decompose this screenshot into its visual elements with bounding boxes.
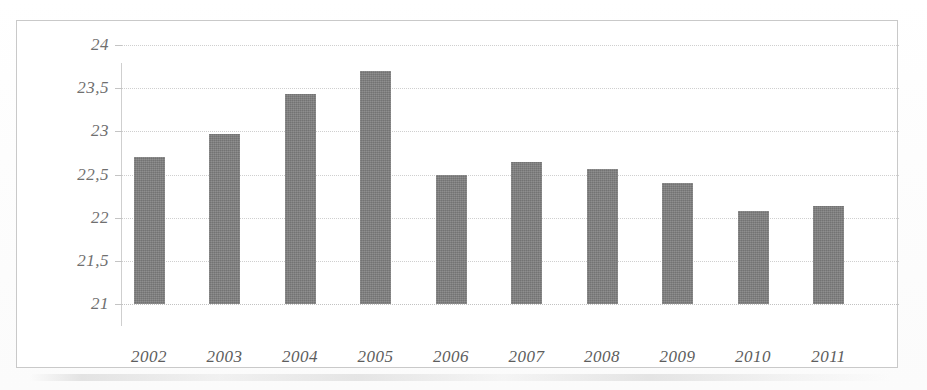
- gridline: [121, 88, 899, 89]
- bar: [662, 183, 693, 304]
- x-axis-category-label: 2004: [263, 347, 337, 367]
- y-axis-tick-label: 21,5: [77, 250, 109, 270]
- y-axis-tick-label: 24: [91, 35, 109, 55]
- bar: [511, 162, 542, 304]
- y-axis-tick-label: 23: [91, 121, 109, 141]
- gridline: [121, 304, 899, 305]
- y-axis-tick-label: 21: [91, 294, 109, 314]
- x-axis-category-label: 2005: [339, 347, 413, 367]
- x-axis-category-label: 2009: [641, 347, 715, 367]
- y-axis-tick: [115, 261, 122, 262]
- y-axis-tick: [115, 88, 122, 89]
- bar: [285, 94, 316, 304]
- bar: [134, 157, 165, 304]
- x-axis-category-label: 2006: [414, 347, 488, 367]
- gridline: [121, 45, 899, 46]
- scan-artifact: [30, 374, 890, 381]
- x-axis-category-label: 2007: [490, 347, 564, 367]
- y-axis-tick-label: 23,5: [77, 78, 109, 98]
- bar: [209, 134, 240, 304]
- y-axis-tick: [115, 304, 122, 305]
- y-axis-tick: [115, 131, 122, 132]
- y-axis-tick-label: 22,5: [77, 164, 109, 184]
- y-axis-tick: [115, 175, 122, 176]
- y-axis-tick: [115, 218, 122, 219]
- x-axis-category-label: 2011: [792, 347, 866, 367]
- x-axis-category-label: 2002: [112, 347, 186, 367]
- chart-screenshot: 2423,52322,52221,521 2002200320042005200…: [0, 0, 927, 390]
- bar: [813, 206, 844, 304]
- bar: [436, 175, 467, 304]
- y-axis-line: [121, 63, 122, 326]
- gridline: [121, 131, 899, 132]
- x-axis-category-label: 2010: [716, 347, 790, 367]
- x-axis-category-label: 2008: [565, 347, 639, 367]
- bar: [587, 169, 618, 304]
- chart-frame: 2423,52322,52221,521 2002200320042005200…: [16, 20, 898, 368]
- y-axis-tick: [115, 45, 122, 46]
- bar: [738, 211, 769, 304]
- y-axis-tick-label: 22: [91, 207, 109, 227]
- x-axis-category-label: 2003: [188, 347, 262, 367]
- bar: [360, 71, 391, 304]
